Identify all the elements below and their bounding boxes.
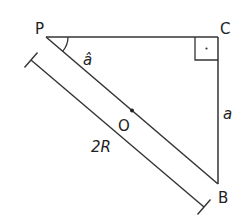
dimension-cap-start	[25, 53, 38, 68]
diagram-canvas: P C B O â a 2R	[0, 0, 247, 220]
triangle-diagram: P C B O â a 2R	[0, 0, 247, 220]
right-angle-dot	[205, 47, 207, 49]
label-vertex-p: P	[35, 20, 44, 38]
angle-arc-p	[63, 37, 68, 51]
midpoint-o-dot	[130, 109, 134, 113]
label-vertex-b: B	[218, 189, 228, 207]
label-angle-a-hat: â	[83, 51, 92, 69]
label-hypotenuse-2r: 2R	[91, 138, 111, 156]
label-vertex-c: C	[220, 20, 230, 38]
label-side-a: a	[223, 105, 232, 123]
label-point-o: O	[118, 117, 130, 135]
dimension-cap-end	[198, 200, 211, 215]
